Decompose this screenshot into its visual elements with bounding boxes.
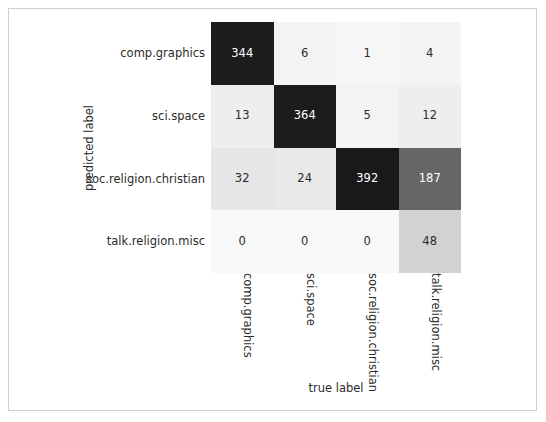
- matrix-cell: 0: [274, 210, 337, 273]
- matrix-cell: 32: [211, 148, 274, 211]
- matrix-cell-value: 5: [364, 110, 371, 122]
- confusion-matrix-figure: predicted label comp.graphics sci.space …: [0, 0, 546, 422]
- matrix-cell: 4: [399, 22, 462, 85]
- x-axis-title: true label: [211, 381, 461, 395]
- matrix-cell-value: 0: [364, 236, 371, 248]
- matrix-cell-value: 24: [297, 173, 312, 185]
- matrix-cell-value: 6: [301, 48, 308, 60]
- matrix-cell: 392: [336, 148, 399, 211]
- matrix-cell: 0: [211, 210, 274, 273]
- matrix-cell-value: 4: [426, 48, 433, 60]
- x-tick-label-0: comp.graphics: [241, 273, 253, 358]
- matrix-cell: 13: [211, 85, 274, 148]
- matrix-cell-value: 0: [239, 236, 246, 248]
- matrix-cell-value: 1: [364, 48, 371, 60]
- matrix-cell: 24: [274, 148, 337, 211]
- matrix-cell: 344: [211, 22, 274, 85]
- confusion-matrix-grid: 344 6 1 4 13 364 5 12 32 24 392 187 0 0 …: [211, 22, 461, 273]
- matrix-cell: 48: [399, 210, 462, 273]
- y-tick-label-3: talk.religion.misc: [6, 234, 211, 248]
- matrix-cell-value: 364: [294, 110, 316, 122]
- matrix-cell: 6: [274, 22, 337, 85]
- matrix-cell: 364: [274, 85, 337, 148]
- matrix-cell-value: 48: [422, 236, 437, 248]
- matrix-cell: 1: [336, 22, 399, 85]
- matrix-cell: 5: [336, 85, 399, 148]
- matrix-cell-value: 187: [419, 173, 441, 185]
- x-tick-label-2: soc.religion.christian: [366, 273, 378, 392]
- matrix-cell-value: 13: [235, 110, 250, 122]
- x-tick-label-1: sci.space: [304, 273, 316, 326]
- matrix-cell: 0: [336, 210, 399, 273]
- matrix-cell-value: 392: [356, 173, 378, 185]
- matrix-cell: 12: [399, 85, 462, 148]
- x-tick-label-3: talk.religion.misc: [429, 273, 441, 371]
- matrix-cell: 187: [399, 148, 462, 211]
- matrix-cell-value: 12: [422, 110, 437, 122]
- y-tick-label-2: soc.religion.christian: [6, 172, 211, 186]
- matrix-cell-value: 344: [231, 48, 253, 60]
- matrix-cell-value: 32: [235, 173, 250, 185]
- y-tick-label-0: comp.graphics: [6, 46, 211, 60]
- x-axis-tick-labels: comp.graphics sci.space soc.religion.chr…: [211, 273, 461, 383]
- matrix-cell-value: 0: [301, 236, 308, 248]
- y-tick-label-1: sci.space: [6, 109, 211, 123]
- y-axis-tick-labels: comp.graphics sci.space soc.religion.chr…: [0, 0, 211, 422]
